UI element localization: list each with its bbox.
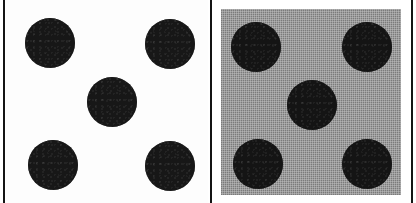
dot-bottom-right — [145, 141, 195, 191]
panel-divider-right — [411, 0, 413, 203]
dot-top-right — [145, 19, 195, 69]
dot-top-left — [231, 22, 281, 72]
dot-top-left — [25, 18, 75, 68]
panel-white-background — [6, 0, 208, 203]
dot-top-right — [342, 22, 392, 72]
panel-divider-middle — [210, 0, 212, 203]
panel-gray-background — [221, 9, 401, 195]
dot-bottom-left — [233, 139, 283, 189]
dot-center — [87, 77, 137, 127]
panel-divider-left — [3, 0, 5, 203]
dot-bottom-left — [28, 140, 78, 190]
dot-bottom-right — [342, 139, 392, 189]
figure-container — [0, 0, 416, 203]
dot-center — [287, 80, 337, 130]
